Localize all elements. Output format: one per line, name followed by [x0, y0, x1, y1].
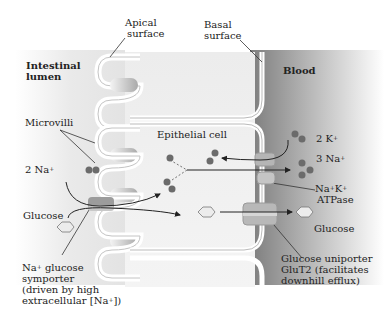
- glucose-lumen-label: Glucose: [23, 210, 63, 221]
- uniporter-shape: [243, 203, 277, 225]
- blood-label: Blood: [283, 65, 316, 76]
- blood-background: [250, 50, 384, 285]
- uniporter-label: Glucose uniporter GluT2 (facilitates dow…: [281, 253, 372, 286]
- epithelial-cell-label: Epithelial cell: [157, 129, 227, 140]
- k-blood-label: 2 K+: [316, 133, 338, 144]
- na-lumen-label: 2 Na+: [25, 164, 54, 175]
- intestinal-lumen-label: Intestinal lumen: [26, 60, 81, 82]
- basal-surface-label: Basal surface: [204, 19, 242, 41]
- symporter-label: Na+ glucose symporter (driven by high ex…: [22, 262, 121, 306]
- atpase-label: Na+K+ ATPase: [315, 183, 354, 205]
- apical-surface-label: Apical surface: [125, 17, 165, 39]
- glucose-blood-label: Glucose: [314, 223, 354, 234]
- na-blood-label: 3 Na+: [316, 153, 345, 164]
- microvilli-label: Microvilli: [25, 117, 73, 128]
- symporter-shape: [88, 197, 114, 211]
